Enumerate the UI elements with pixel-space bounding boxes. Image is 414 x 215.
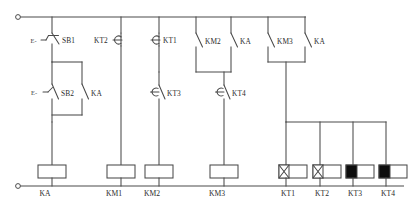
coil-label-kt3: KT3: [348, 189, 362, 198]
coil-kt4[interactable]: KT4: [379, 122, 407, 198]
branch-ka: E- SB1 E- SB2 KA KA: [31, 17, 103, 198]
schematic-canvas: E- SB1 E- SB2 KA KA: [0, 0, 414, 215]
contact-label-kt1: KT1: [163, 36, 177, 45]
contact-label-kt2: KT2: [94, 36, 108, 45]
coil-ka[interactable]: KA: [38, 165, 66, 198]
contact-kt4[interactable]: KT4: [216, 72, 247, 165]
coil-label-kt4: KT4: [381, 189, 395, 198]
contact-ka-a[interactable]: KA: [231, 17, 251, 72]
contact-label-km2-contact: KM2: [205, 37, 221, 46]
contact-sb2[interactable]: E- SB2: [31, 62, 74, 122]
contact-kt3[interactable]: KT3: [151, 72, 182, 165]
top-rail-terminal: [16, 15, 21, 20]
contact-ka-seal[interactable]: KA: [52, 84, 102, 115]
coil-kt1[interactable]: KT1: [279, 122, 307, 198]
coil-kt3[interactable]: KT3: [346, 122, 374, 198]
contact-kt2[interactable]: KT2: [94, 33, 122, 165]
contact-label-sb2: SB2: [61, 89, 74, 98]
top-supply-rail: [16, 15, 306, 20]
coil-label-ka: KA: [40, 189, 51, 198]
contact-km2[interactable]: KM2: [196, 17, 221, 72]
pushbutton-mark-sb1: E-: [31, 37, 37, 44]
contact-sb1[interactable]: E- SB1: [31, 33, 76, 62]
branch-km1: KT2 KM1: [94, 17, 135, 198]
contact-label-ka-a: KA: [240, 37, 251, 46]
contact-kt1[interactable]: KT1: [151, 33, 177, 72]
coil-km1[interactable]: KM1: [106, 165, 135, 198]
contact-label-ka-seal: KA: [91, 89, 102, 98]
contact-km3[interactable]: KM3: [268, 17, 293, 62]
bottom-rail-terminal: [16, 184, 21, 189]
ladder-diagram: E- SB1 E- SB2 KA KA: [0, 0, 414, 215]
contact-label-km3-contact: KM3: [277, 37, 293, 46]
coil-label-kt1: KT1: [281, 189, 295, 198]
branch-km3: KM2 KA KT4 KM3: [196, 17, 251, 198]
coil-kt2[interactable]: KT2: [313, 122, 341, 198]
coil-km3[interactable]: KM3: [209, 165, 238, 198]
branch-km2: KT1 KT3 KM2: [144, 17, 181, 198]
contact-ka-b[interactable]: KA: [305, 17, 325, 62]
contact-label-ka-b: KA: [314, 37, 325, 46]
bottom-supply-rail: [16, 184, 404, 189]
contact-label-kt4: KT4: [232, 89, 246, 98]
contact-label-sb1: SB1: [62, 36, 75, 45]
coil-label-kt2: KT2: [315, 189, 329, 198]
timer-coil-group: KT1 KT2 KT3 KT4: [279, 122, 407, 198]
coil-label-km2: KM2: [144, 189, 160, 198]
pushbutton-mark-sb2: E-: [31, 89, 37, 96]
coil-km2[interactable]: KM2: [144, 165, 173, 198]
coil-label-km3: KM3: [209, 189, 225, 198]
coil-label-km1: KM1: [106, 189, 122, 198]
contact-label-kt3: KT3: [167, 89, 181, 98]
branch-timer-feed: KM3 KA: [268, 17, 386, 122]
